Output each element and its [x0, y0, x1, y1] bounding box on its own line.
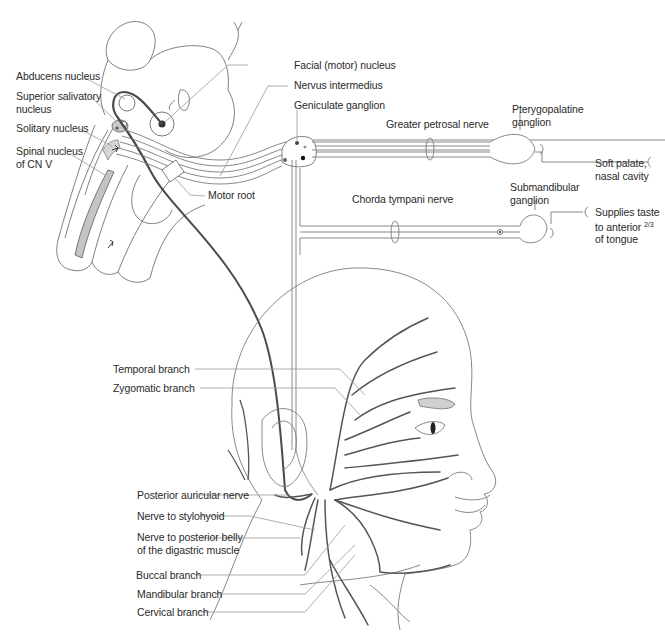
label-chorda-tympani-nerve: Chorda tympani nerve [352, 193, 453, 206]
label-greater-petrosal-nerve: Greater petrosal nerve [386, 118, 489, 131]
occipital-branches [228, 400, 249, 480]
label-mandibular-branch: Mandibular branch [137, 588, 222, 601]
label-supplies-taste: Supplies taste to anterior 2/3 of tongue [595, 206, 660, 246]
label-nervus-intermedius: Nervus intermedius [294, 79, 383, 92]
label-facial-motor-nucleus: Facial (motor) nucleus [294, 59, 396, 72]
label-superior-salivatory-nucleus: Superior salivatory nucleus [16, 90, 101, 115]
label-solitary-nucleus: Solitary nucleus [16, 122, 89, 135]
label-zygomatic-branch: Zygomatic branch [113, 382, 195, 395]
label-temporal-branch: Temporal branch [113, 363, 190, 376]
label-pterygopalatine-ganglion: Pterygopalatine ganglion [512, 103, 583, 128]
label-buccal-branch: Buccal branch [136, 569, 201, 582]
facial-nerve-main-trunk [150, 170, 312, 500]
motor-root [162, 160, 184, 182]
label-spinal-nucleus-cn-v: Spinal nucleus of CN V [16, 145, 83, 170]
label-posterior-auricular-nerve: Posterior auricular nerve [137, 489, 249, 502]
label-abducens-nucleus: Abducens nucleus [16, 70, 100, 83]
head-outline [210, 268, 496, 630]
facial-canal-vertical [292, 160, 300, 450]
facial-nerve-branches [275, 318, 458, 625]
label-cervical-branch: Cervical branch [137, 606, 208, 619]
label-nerve-to-digastric: Nerve to posterior belly of the digastri… [137, 531, 243, 556]
label-nerve-to-stylohyoid: Nerve to stylohyoid [137, 510, 224, 523]
label-submandibular-ganglion: Submandibular ganglion [510, 181, 579, 206]
label-motor-root: Motor root [208, 189, 255, 202]
label-geniculate-ganglion: Geniculate ganglion [294, 99, 385, 112]
geniculate-ganglion-shape [282, 137, 316, 167]
label-soft-palate-nasal-cavity: Soft palate, nasal cavity [595, 157, 649, 182]
chorda-tympani-nerve [300, 200, 588, 243]
